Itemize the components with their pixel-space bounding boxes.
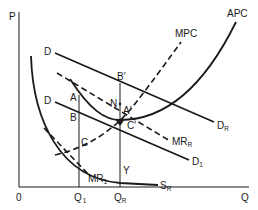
point-y-label: Y <box>123 165 130 176</box>
apc-label: APC <box>227 8 248 19</box>
demand-d1-line <box>55 102 189 160</box>
x-axis-label: Q <box>241 192 249 203</box>
q1-tick-label: Q1 <box>74 192 87 204</box>
mrr-label: MRR <box>172 136 193 148</box>
point-b-prime-label: B′ <box>117 71 126 82</box>
point-a-prime-label: A′ <box>123 105 132 116</box>
mr1-label: MR1 <box>88 173 108 185</box>
demand-d1-label: D1 <box>192 156 203 168</box>
point-n-label: N <box>110 98 117 109</box>
n-marker <box>119 103 122 106</box>
y-axis-label: P <box>9 11 16 22</box>
origin-label: 0 <box>16 192 22 203</box>
point-c-prime-label: C′ <box>127 120 136 131</box>
sr-curve <box>31 56 158 185</box>
monopsony-diagram: P Q 0 Q1 QR SR D DR D D1 APC MPC MRR MR1… <box>0 0 258 210</box>
demand-d-lower-label: D <box>44 95 51 106</box>
c-prime-marker <box>115 119 125 126</box>
point-c-label: C <box>81 137 88 148</box>
qr-tick-label: QR <box>114 192 127 204</box>
sr-label: SR <box>160 180 172 192</box>
mpc-label: MPC <box>175 28 197 39</box>
demand-dr-label: DR <box>217 120 229 132</box>
point-b-label: B <box>70 112 77 123</box>
point-a-label: A <box>70 92 77 103</box>
mr1-line <box>44 128 90 176</box>
demand-d-label: D <box>44 46 51 57</box>
